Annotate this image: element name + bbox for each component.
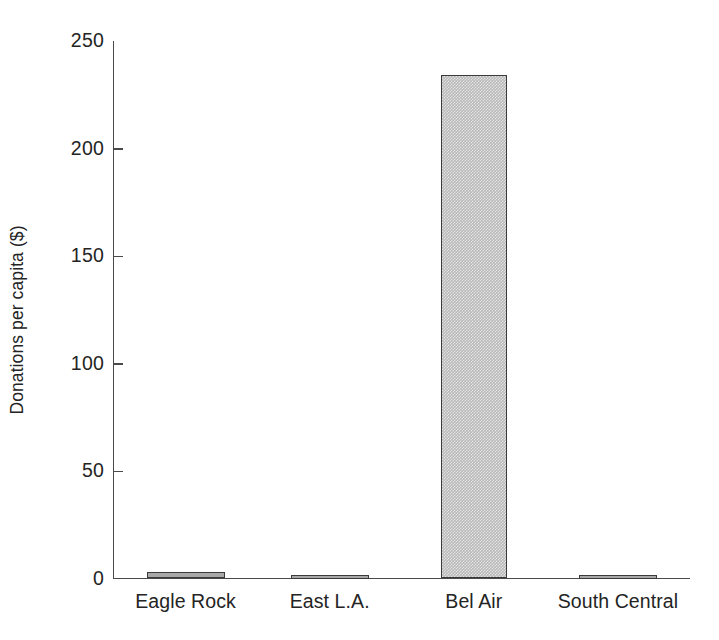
bar: [579, 575, 657, 579]
x-tick-label: Eagle Rock: [114, 592, 258, 612]
bars-layer: [0, 0, 719, 640]
bar: [291, 575, 369, 579]
bar: [441, 75, 507, 578]
x-tick-label: Bel Air: [402, 592, 546, 612]
x-tick-label: South Central: [546, 592, 690, 612]
x-tick-label: East L.A.: [258, 592, 402, 612]
bar: [147, 572, 225, 578]
bar-chart: Donations per capita ($) 0 50 100 150 20…: [0, 0, 719, 640]
